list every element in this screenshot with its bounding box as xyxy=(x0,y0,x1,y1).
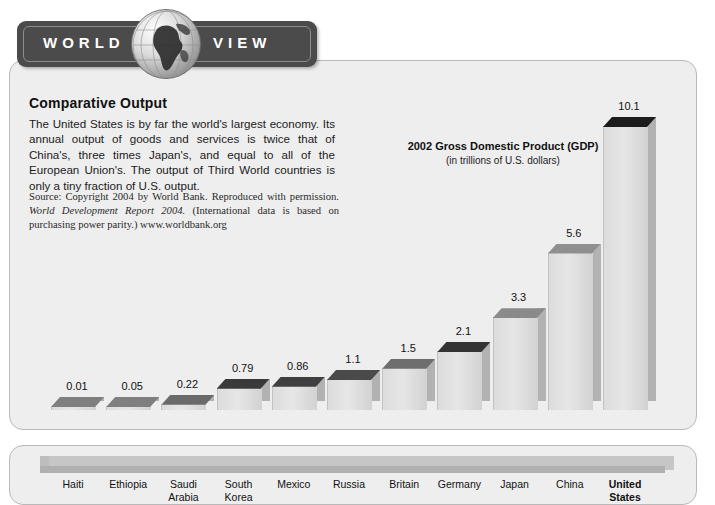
bar-face xyxy=(493,317,538,410)
bar-face xyxy=(548,253,593,410)
bar-value-label: 3.3 xyxy=(484,291,554,303)
bar-face xyxy=(272,386,317,410)
bar-top xyxy=(493,308,546,318)
bar-value-label: 10.1 xyxy=(594,100,664,112)
bar-side xyxy=(592,244,601,401)
bar-top xyxy=(437,342,490,352)
chart-base-front xyxy=(40,466,665,473)
bar-value-label: 2.1 xyxy=(428,325,498,337)
bar-top xyxy=(272,377,325,387)
bar-top xyxy=(161,395,214,405)
bar-united-states: 10.1 xyxy=(603,60,647,410)
banner-word-world: WORLD xyxy=(43,34,125,51)
bar-top xyxy=(327,370,380,380)
bar-top xyxy=(217,379,270,389)
bar-value-label: 1.1 xyxy=(318,353,388,365)
bar-value-label: 1.5 xyxy=(373,342,443,354)
bar-top xyxy=(382,359,435,369)
bar-ethiopia: 0.05 xyxy=(106,60,150,410)
bar-face xyxy=(327,379,372,410)
bar-side xyxy=(647,117,656,401)
bar-top xyxy=(548,244,601,254)
bar-haiti: 0.01 xyxy=(51,60,95,410)
bar-face xyxy=(217,388,262,410)
bar-china: 5.6 xyxy=(548,60,592,410)
bar-side xyxy=(537,308,546,401)
banner-word-view: VIEW xyxy=(213,34,271,51)
bar-russia: 1.1 xyxy=(327,60,371,410)
bar-south-korea: 0.79 xyxy=(217,60,261,410)
bar-top xyxy=(603,117,656,127)
gdp-bar-chart: 0.010.050.220.790.861.11.52.13.35.610.1 … xyxy=(9,60,697,430)
bar-face xyxy=(382,368,427,410)
category-label-united-states: UnitedStates xyxy=(588,478,662,503)
bar-face xyxy=(603,126,648,410)
bar-japan: 3.3 xyxy=(493,60,537,410)
bar-germany: 2.1 xyxy=(437,60,481,410)
bar-top xyxy=(106,397,159,407)
bar-face xyxy=(437,351,482,410)
bar-side xyxy=(481,342,490,401)
bar-britain: 1.5 xyxy=(382,60,426,410)
bar-top xyxy=(51,397,104,407)
bar-saudi-arabia: 0.22 xyxy=(161,60,205,410)
bar-value-label: 0.22 xyxy=(152,378,222,390)
bar-mexico: 0.86 xyxy=(272,60,316,410)
bar-value-label: 5.6 xyxy=(539,227,609,239)
